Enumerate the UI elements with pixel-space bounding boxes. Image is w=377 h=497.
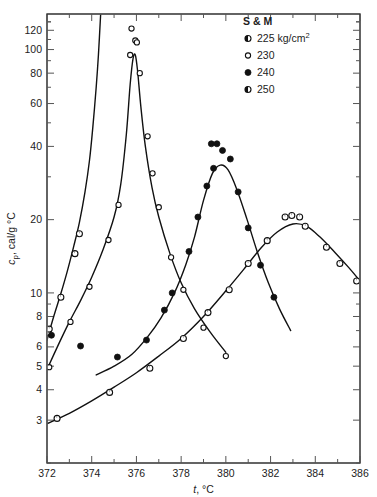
data-point bbox=[226, 287, 232, 293]
series-curve bbox=[96, 165, 291, 375]
y-axis-title: cp, cal/g °C bbox=[5, 212, 20, 265]
x-axis-title: t, °C bbox=[193, 483, 214, 495]
y-tick-label: 100 bbox=[24, 43, 42, 55]
x-tick-label: 378 bbox=[172, 467, 190, 479]
data-point bbox=[180, 335, 186, 341]
data-point bbox=[106, 237, 111, 242]
y-tick-label: 40 bbox=[30, 140, 42, 152]
data-point bbox=[169, 290, 175, 296]
y-tick-label: 20 bbox=[30, 213, 42, 225]
legend-title: S & M bbox=[243, 15, 272, 27]
data-point bbox=[143, 337, 149, 343]
data-point bbox=[48, 332, 54, 338]
legend-label: 250 bbox=[257, 83, 275, 95]
y-tick-label: 120 bbox=[24, 24, 42, 36]
x-tick-label: 386 bbox=[351, 467, 369, 479]
y-tick-label: 80 bbox=[30, 67, 42, 79]
data-point bbox=[137, 71, 142, 76]
data-point bbox=[282, 214, 288, 220]
data-point bbox=[289, 213, 295, 219]
y-tick-label: 6 bbox=[36, 340, 42, 352]
data-point bbox=[58, 294, 64, 300]
data-point bbox=[201, 325, 206, 330]
y-tick-label: 3 bbox=[36, 414, 42, 426]
x-tick-label: 372 bbox=[38, 467, 56, 479]
series-225-kg-cm- bbox=[45, 14, 101, 340]
data-point bbox=[168, 255, 173, 260]
semilog-heat-capacity-plot: 3456810204060801001203723743763783803823… bbox=[0, 0, 377, 497]
data-point bbox=[297, 214, 303, 220]
data-point bbox=[134, 40, 139, 45]
series-layer bbox=[45, 14, 360, 424]
data-point bbox=[214, 141, 220, 147]
data-point bbox=[258, 262, 264, 268]
data-point bbox=[54, 415, 60, 421]
data-point bbox=[78, 343, 84, 349]
data-point bbox=[354, 278, 360, 284]
data-point bbox=[186, 248, 192, 254]
data-point bbox=[72, 251, 78, 257]
data-point bbox=[337, 261, 343, 267]
data-point bbox=[195, 214, 201, 220]
data-point bbox=[145, 134, 150, 139]
data-point bbox=[107, 389, 113, 395]
plot-frame bbox=[47, 14, 360, 463]
x-tick-label: 384 bbox=[307, 467, 325, 479]
x-tick-label: 382 bbox=[262, 467, 280, 479]
data-point bbox=[245, 225, 251, 231]
legend-marker bbox=[245, 36, 251, 42]
data-point bbox=[114, 354, 120, 360]
data-point bbox=[220, 147, 226, 153]
data-point bbox=[205, 310, 211, 316]
data-point bbox=[181, 287, 186, 292]
series-250 bbox=[47, 213, 360, 424]
data-point bbox=[116, 202, 121, 207]
data-point bbox=[245, 261, 251, 267]
data-point bbox=[264, 238, 270, 244]
legend-label: 225 kg/cm2 bbox=[257, 31, 310, 44]
y-tick-label: 8 bbox=[36, 310, 42, 322]
data-point bbox=[302, 223, 308, 229]
data-point bbox=[161, 307, 167, 313]
legend-label: 240 bbox=[257, 66, 275, 78]
x-tick-label: 376 bbox=[128, 467, 146, 479]
data-point bbox=[156, 205, 161, 210]
data-point bbox=[128, 52, 133, 57]
data-point bbox=[204, 183, 210, 189]
data-point bbox=[150, 171, 155, 176]
x-tick-label: 374 bbox=[83, 467, 101, 479]
legend-marker bbox=[245, 70, 251, 76]
data-point bbox=[129, 26, 134, 31]
x-tick-label: 380 bbox=[217, 467, 235, 479]
legend-marker bbox=[245, 87, 251, 93]
legend: S & M225 kg/cm2230240250 bbox=[243, 15, 310, 95]
data-point bbox=[223, 353, 228, 358]
data-point bbox=[147, 365, 153, 371]
data-point bbox=[208, 141, 214, 147]
data-point bbox=[227, 156, 233, 162]
y-tick-label: 4 bbox=[36, 383, 42, 395]
legend-label: 230 bbox=[257, 49, 275, 61]
data-point bbox=[68, 319, 73, 324]
y-tick-label: 5 bbox=[36, 360, 42, 372]
chart-figure: 3456810204060801001203723743763783803823… bbox=[0, 0, 377, 497]
data-point bbox=[211, 165, 217, 171]
series-curve bbox=[47, 14, 101, 340]
data-point bbox=[271, 294, 277, 300]
y-tick-label: 60 bbox=[30, 97, 42, 109]
y-tick-label: 10 bbox=[30, 287, 42, 299]
data-point bbox=[323, 244, 329, 250]
data-point bbox=[87, 284, 92, 289]
data-point bbox=[76, 231, 82, 237]
data-point bbox=[235, 189, 241, 195]
legend-marker bbox=[245, 53, 250, 58]
